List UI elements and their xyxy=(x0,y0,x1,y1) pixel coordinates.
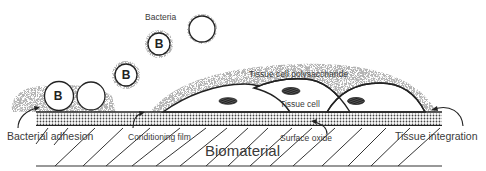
bacterium-marker: B xyxy=(155,38,164,50)
biomaterial-diagram: B B B Bacteria Tissue cell polysaccharid… xyxy=(0,0,486,171)
label-surface-oxide: Surface oxide xyxy=(280,134,332,143)
bacterium-adhered-empty xyxy=(77,82,105,110)
label-tissue-cell-polysaccharide: Tissue cell polysaccharide xyxy=(249,70,348,79)
surface-oxide-layer xyxy=(36,113,442,125)
label-conditioning-film: Conditioning film xyxy=(128,133,191,142)
nucleus-3 xyxy=(348,98,365,105)
label-tissue-cell: Tissue cell xyxy=(280,100,320,109)
nucleus-1 xyxy=(219,98,237,105)
label-bacteria: Bacteria xyxy=(145,13,176,22)
bacterium-marker: B xyxy=(54,90,63,102)
bacterium-marker: B xyxy=(122,69,131,81)
label-tissue-integration: Tissue integration xyxy=(395,131,478,142)
nucleus-2 xyxy=(282,88,300,95)
label-biomaterial: Biomaterial xyxy=(205,143,280,158)
label-bacterial-adhesion: Bacterial adhesion xyxy=(7,131,93,142)
bacterium-empty-1 xyxy=(189,16,215,42)
